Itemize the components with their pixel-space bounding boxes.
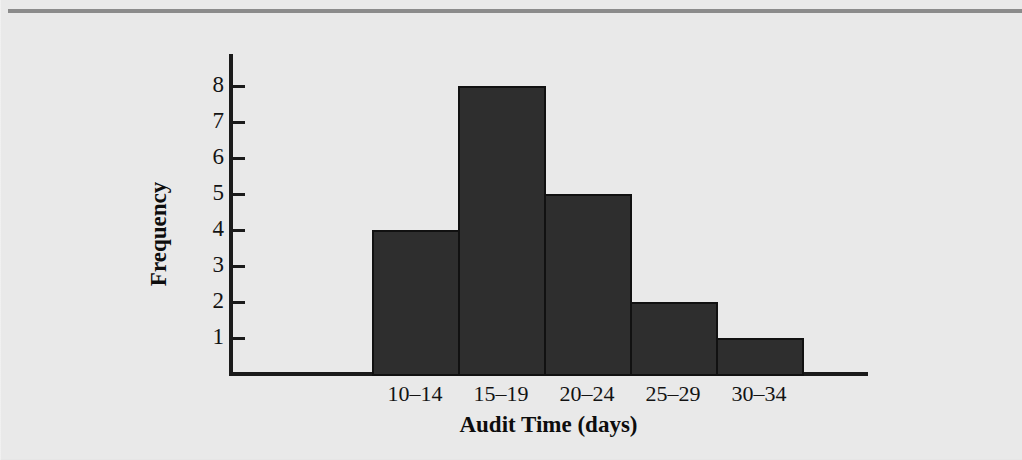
y-axis-spine bbox=[229, 54, 233, 376]
y-axis-tick-label-text: 2 bbox=[196, 289, 224, 312]
y-axis-tick-label-text: 5 bbox=[196, 181, 224, 204]
y-axis-tick-label-text: 1 bbox=[196, 325, 224, 348]
x-axis-tick-label: 30–34 bbox=[704, 382, 814, 406]
y-axis-tick-label-text: 6 bbox=[196, 145, 224, 168]
y-axis-tick-label: 8 bbox=[190, 73, 224, 96]
y-axis-tick-label: 5 bbox=[190, 181, 224, 204]
y-axis-tick-label: 4 bbox=[190, 217, 224, 240]
y-axis-tick bbox=[233, 85, 245, 88]
histogram-figure: 12345678 10–1415–1920–2425–2930–34 Audit… bbox=[0, 14, 1022, 444]
y-axis-tick-label-text: 3 bbox=[196, 253, 224, 276]
y-axis-tick bbox=[233, 301, 245, 304]
y-axis-tick-label: 6 bbox=[190, 145, 224, 168]
histogram-bar bbox=[544, 194, 632, 376]
y-axis-tick-label: 3 bbox=[190, 253, 224, 276]
y-axis-tick-label-text: 4 bbox=[196, 217, 224, 240]
y-axis-tick-label: 2 bbox=[190, 289, 224, 312]
top-horizontal-rule bbox=[8, 9, 1022, 13]
histogram-bar bbox=[716, 338, 804, 376]
y-axis-tick-label: 1 bbox=[190, 325, 224, 348]
histogram-bar bbox=[630, 302, 718, 376]
y-axis-tick bbox=[233, 121, 245, 124]
histogram-bar bbox=[372, 230, 460, 376]
x-axis-title: Audit Time (days) bbox=[229, 412, 868, 438]
y-axis-tick bbox=[233, 265, 245, 268]
y-axis-tick-label-text: 8 bbox=[196, 73, 224, 96]
histogram-bar bbox=[458, 86, 546, 376]
y-axis-tick-label-text: 7 bbox=[196, 109, 224, 132]
y-axis-tick bbox=[233, 229, 245, 232]
y-axis-tick-label: 7 bbox=[190, 109, 224, 132]
page-background: 12345678 10–1415–1920–2425–2930–34 Audit… bbox=[0, 0, 1022, 460]
y-axis-tick bbox=[233, 337, 245, 340]
y-axis-title: Frequency bbox=[146, 134, 172, 334]
y-axis-tick bbox=[233, 157, 245, 160]
y-axis-tick bbox=[233, 193, 245, 196]
